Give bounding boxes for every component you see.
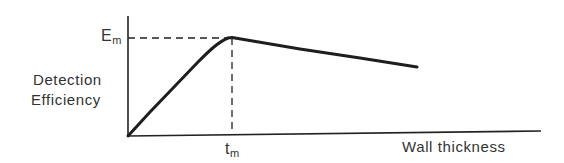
y-axis-label-line1: Detection [33, 71, 102, 88]
tm-label-sub: m [230, 147, 240, 159]
x-axis-label: Wall thickness [402, 138, 506, 155]
x-axis [128, 131, 541, 136]
em-label-main: E [101, 27, 112, 44]
em-label: Em [101, 27, 122, 45]
tm-label: tm [225, 140, 240, 158]
em-label-sub: m [112, 34, 122, 46]
efficiency-curve [128, 38, 417, 137]
y-axis-label-line2: Efficiency [31, 91, 101, 108]
